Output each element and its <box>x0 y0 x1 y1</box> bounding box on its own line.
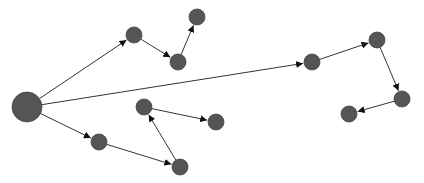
graph-node-n1 <box>126 27 142 43</box>
graph-node-n8 <box>91 134 107 150</box>
graph-node-n11 <box>208 114 224 130</box>
nodes-layer <box>12 9 410 175</box>
graph-node-n3 <box>189 9 205 25</box>
edge-n8-n9 <box>107 144 172 164</box>
edge-n10-n11 <box>152 109 207 121</box>
edge-n4-n5 <box>320 43 369 60</box>
edge-n2-n3 <box>181 25 193 54</box>
graph-node-n5 <box>369 32 385 48</box>
graph-node-n9 <box>172 159 188 175</box>
edge-n0-n4 <box>42 63 303 104</box>
graph-node-n10 <box>136 99 152 115</box>
graph-node-n7 <box>341 106 357 122</box>
edge-n0-n8 <box>40 114 90 139</box>
edge-n0-n1 <box>39 40 126 99</box>
graph-node-n6 <box>394 91 410 107</box>
edge-n6-n7 <box>358 101 395 111</box>
edge-n5-n6 <box>380 47 398 90</box>
graph-node-n0 <box>12 92 42 122</box>
graph-canvas <box>0 0 424 183</box>
edge-n1-n2 <box>141 39 171 57</box>
graph-node-n2 <box>170 54 186 70</box>
graph-node-n4 <box>304 54 320 70</box>
edge-n9-n10 <box>149 115 176 160</box>
